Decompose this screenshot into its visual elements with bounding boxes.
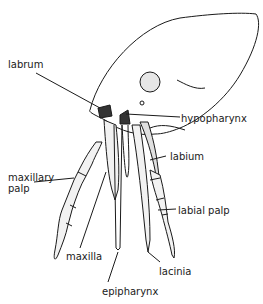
diagram-drawing [0, 0, 263, 304]
label-lacinia: lacinia [159, 266, 191, 277]
gena-line [177, 80, 205, 88]
label-maxilla: maxilla [66, 251, 102, 262]
labial-palp [150, 170, 175, 258]
maxillary-palp [54, 142, 102, 259]
label-labrum: labrum [8, 59, 43, 70]
label-epipharynx: epipharynx [102, 286, 158, 297]
label-labium: labium [170, 151, 204, 162]
maxilla [104, 120, 119, 200]
lacinia [132, 125, 150, 252]
mouthparts-diagram: labrum hypopharynx labium maxillary palp… [0, 0, 263, 304]
label-maxillary-palp-1: maxillary [8, 172, 54, 183]
label-maxillary-palp-2: palp [8, 183, 30, 194]
label-hypopharynx: hypopharynx [181, 113, 247, 124]
compound-eye [140, 72, 160, 92]
label-labial-palp: labial palp [178, 205, 230, 216]
